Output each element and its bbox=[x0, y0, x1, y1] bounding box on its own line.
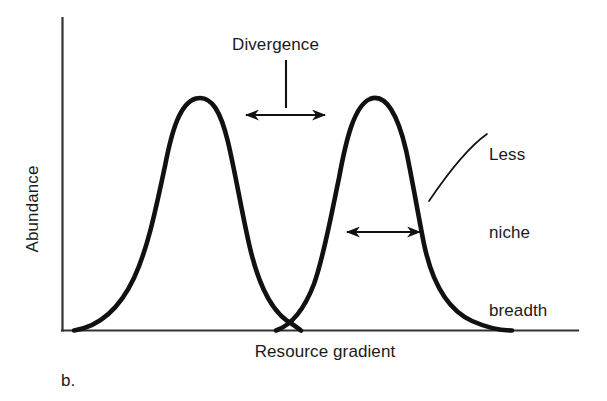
x-axis-label: Resource gradient bbox=[180, 341, 470, 363]
curve-species-1 bbox=[74, 98, 301, 331]
figure-panel-b: Abundance Resource gradient Divergence L… bbox=[0, 0, 607, 401]
niche-breadth-label-line-2: niche bbox=[489, 220, 547, 246]
panel-caption: b. bbox=[61, 370, 75, 392]
divergence-annotation-label: Divergence bbox=[232, 34, 319, 56]
niche-breadth-annotation-label: Less niche breadth bbox=[489, 90, 547, 376]
divergence-annotation bbox=[246, 60, 325, 115]
y-axis-label: Abundance bbox=[22, 89, 44, 329]
niche-breadth-leader-line bbox=[429, 134, 487, 201]
curve-species-2 bbox=[276, 98, 512, 331]
niche-breadth-label-line-1: Less bbox=[489, 142, 547, 168]
niche-breadth-label-line-3: breadth bbox=[489, 298, 547, 324]
